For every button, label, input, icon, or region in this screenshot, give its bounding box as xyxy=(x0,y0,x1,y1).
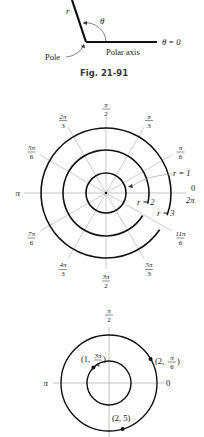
two-pi-label: 2π xyxy=(186,195,195,205)
plotted-point xyxy=(149,357,153,361)
pi-label: π xyxy=(15,188,20,198)
r2-label: r = 2 xyxy=(137,197,155,207)
svg-text:): ) xyxy=(177,356,180,366)
angle-label: 2π3 xyxy=(59,113,67,130)
angle-label: 5π3 xyxy=(145,261,153,278)
r3-label: r = 3 xyxy=(157,208,175,218)
svg-text:6: 6 xyxy=(179,239,183,247)
svg-text:3: 3 xyxy=(61,270,65,278)
top-angle-label: π2 xyxy=(105,307,113,324)
r-label: r xyxy=(66,6,70,16)
svg-text:2π: 2π xyxy=(59,113,67,121)
r1-pointer xyxy=(132,174,172,186)
point-label-2-pi6: (2,π6) xyxy=(155,354,180,371)
svg-text:π: π xyxy=(107,307,111,315)
r-line xyxy=(72,0,86,42)
theta-arrowhead xyxy=(83,21,87,25)
svg-text:(1,: (1, xyxy=(81,354,90,364)
svg-text:3π: 3π xyxy=(101,273,110,281)
angle-label: π6 xyxy=(176,144,184,161)
svg-text:3: 3 xyxy=(147,270,151,278)
angle-label: 11π6 xyxy=(175,230,185,247)
svg-text:2: 2 xyxy=(104,282,108,290)
svg-text:6: 6 xyxy=(30,153,34,161)
svg-text:6: 6 xyxy=(170,363,174,371)
svg-text:3: 3 xyxy=(147,122,151,130)
theta-label: θ xyxy=(100,16,105,26)
polar-grid-diagram: π2π3π62π35π67π64π33π25π311π6π02πr = 1r =… xyxy=(15,101,195,290)
angle-label: 7π6 xyxy=(28,230,36,247)
polar-points-diagram: π2π0(1,3π4)(2,π6)(2, 5) xyxy=(43,307,180,437)
svg-text:2: 2 xyxy=(107,316,111,324)
svg-text:6: 6 xyxy=(30,239,34,247)
svg-text:5π: 5π xyxy=(145,261,153,269)
pi-label: π xyxy=(43,378,48,388)
svg-text:11π: 11π xyxy=(175,230,185,238)
svg-text:4: 4 xyxy=(96,361,100,369)
polar-coordinates-figure: r θ Pole Polar axis θ = 0 Fig. 21-91 π2π… xyxy=(0,0,204,437)
r1-arrowhead xyxy=(128,184,133,188)
angle-label: 4π3 xyxy=(59,261,67,278)
figure-caption: Fig. 21-91 xyxy=(80,68,128,78)
pole-dot xyxy=(105,192,107,194)
svg-text:7π: 7π xyxy=(28,230,36,238)
point-label-2-5: (2, 5) xyxy=(112,413,131,423)
angle-label: π2 xyxy=(102,101,110,118)
pole-label: Pole xyxy=(45,52,60,62)
svg-text:2: 2 xyxy=(104,110,108,118)
angle-label: 5π6 xyxy=(28,144,36,161)
svg-text:6: 6 xyxy=(179,153,183,161)
angle-label: π3 xyxy=(145,113,153,130)
plotted-point xyxy=(121,427,125,431)
svg-text:π: π xyxy=(179,144,183,152)
svg-text:3: 3 xyxy=(61,122,65,130)
svg-text:4π: 4π xyxy=(59,261,67,269)
polar-axis-label: Polar axis xyxy=(106,47,140,57)
angle-label: 3π2 xyxy=(101,273,110,290)
svg-text:π: π xyxy=(104,101,108,109)
polar-definition-diagram: r θ Pole Polar axis θ = 0 xyxy=(45,0,181,62)
svg-text:(2,: (2, xyxy=(155,356,164,366)
svg-text:5π: 5π xyxy=(28,144,36,152)
zero-label: 0 xyxy=(166,378,170,388)
r1-label: r = 1 xyxy=(173,168,191,178)
pole-arrowhead xyxy=(81,44,85,48)
svg-text:3π: 3π xyxy=(93,352,102,360)
svg-text:π: π xyxy=(147,113,151,121)
svg-text:π: π xyxy=(170,354,174,362)
svg-text:): ) xyxy=(103,354,106,364)
zero-label: 0 xyxy=(191,183,195,193)
theta-zero-label: θ = 0 xyxy=(162,37,181,47)
point-fraction: π6 xyxy=(168,354,176,371)
plotted-point xyxy=(91,365,95,369)
